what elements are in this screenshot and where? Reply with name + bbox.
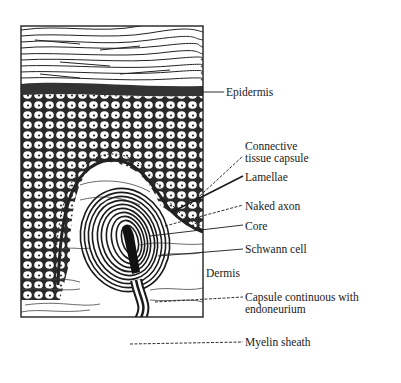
label-capsule-continuous-line2: endoneurium (245, 303, 306, 315)
label-capsule-continuous-line1: Capsule continuous with (245, 291, 359, 303)
label-lamellae: Lamellae (245, 171, 288, 183)
pacinian-corpuscle-diagram: Epidermis Connective tissue capsule Lame… (0, 0, 401, 383)
label-connective-tissue-capsule-line2: tissue capsule (245, 152, 309, 164)
label-dermis: Dermis (206, 267, 240, 279)
label-myelin-sheath: Myelin sheath (245, 336, 310, 348)
label-naked-axon: Naked axon (245, 200, 300, 212)
stratum-corneum (21, 21, 203, 80)
diagram-drawing (0, 0, 401, 383)
label-core: Core (245, 220, 267, 232)
label-schwann-cell: Schwann cell (245, 243, 307, 255)
label-connective-tissue-capsule-line1: Connective (245, 140, 297, 152)
label-epidermis: Epidermis (226, 86, 273, 98)
